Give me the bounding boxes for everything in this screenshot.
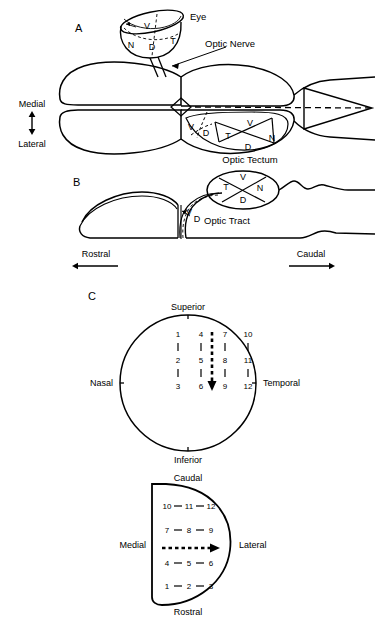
telencephalon-lateral-top-inner (80, 196, 177, 226)
retina-column-3: 7 8 9 (223, 330, 228, 391)
tectum-label-temporal: T (225, 131, 231, 141)
tectum-arrowhead (210, 544, 220, 553)
axis-label-rostral: Rostral (82, 249, 111, 259)
retina-cell-2-3: 6 (199, 382, 204, 391)
tectum-quadrant-map-dorsal: V D T V N D (186, 112, 288, 152)
retina-cell-4-3: 12 (244, 382, 253, 391)
tectum-cell-3-1: 4 (165, 559, 170, 568)
axis-arrowhead-up (29, 111, 36, 117)
tectum-label-medial: Medial (119, 540, 146, 550)
midline-axis-dashed (195, 107, 372, 108)
tectum-edge-label-dorsal: D (203, 128, 210, 138)
tract-label-ventral: V (186, 207, 192, 217)
tectum-label-caudal: Caudal (174, 473, 203, 483)
tectum-label-ventral: V (247, 118, 253, 128)
retina-label-inferior: Inferior (174, 455, 202, 465)
axis-label-medial: Medial (19, 99, 46, 109)
rostral-arrowhead (72, 263, 78, 269)
retina-column-2: 4 5 6 (199, 330, 204, 391)
tectum-lateral-label-temporal: T (223, 182, 229, 192)
retinotectal-diagram: A V N D T Eye (0, 0, 375, 619)
tectum-cell-4-3: 3 (209, 582, 214, 591)
brainstem-lateral-top (324, 185, 375, 190)
optic-nerve-group: Optic Nerve (150, 38, 255, 77)
retina-label-temporal: Temporal (263, 378, 300, 388)
optic-nerve-leader (172, 47, 226, 66)
tectum-label-rostral: Rostral (174, 607, 203, 617)
axis-label-lateral: Lateral (18, 139, 46, 149)
optic-nerve-leader-arrowhead (172, 63, 179, 69)
retina-direction-arrow (208, 332, 217, 391)
retina-map: Superior Inferior Nasal Temporal 1 2 3 4… (90, 302, 300, 465)
retina-cell-3-1: 7 (223, 330, 228, 339)
eye-rim (119, 6, 186, 39)
tectum-lateral-label-nasal: N (257, 183, 264, 193)
retina-label-nasal: Nasal (90, 378, 113, 388)
retina-circle (120, 315, 256, 451)
brainstem-upper-edge (294, 77, 375, 95)
tectum-lateral-group: T V N D (207, 171, 279, 209)
telencephalon-lower (60, 110, 181, 154)
retina-cell-3-2: 8 (223, 356, 228, 365)
panel-c: C Superior Inferior Nasal Temporal 1 2 3 (88, 290, 300, 617)
tectum-cell-2-3: 9 (209, 526, 214, 535)
tectum-lower-dorsal (181, 110, 294, 153)
retina-cell-1-3: 3 (176, 382, 181, 391)
eye-group: V N D T Eye (119, 6, 207, 58)
tectum-cell-2-1: 7 (165, 526, 170, 535)
eye-text-label: Eye (190, 11, 206, 22)
tectum-lateral-label-dorsal: D (240, 195, 247, 205)
brainstem-lower-edge (294, 121, 375, 140)
panel-b-letter: B (73, 176, 80, 188)
cerebellum-lateral (279, 181, 324, 190)
retina-cell-2-1: 4 (199, 330, 204, 339)
optic-nerve-text-label: Optic Nerve (205, 38, 255, 49)
tectum-row-3: 4 5 6 (165, 559, 214, 568)
panel-c-letter: C (88, 290, 96, 302)
medial-lateral-axis: Medial Lateral (18, 99, 46, 149)
retina-cell-1-2: 2 (176, 356, 181, 365)
eye-arrowhead (126, 22, 130, 26)
tectum-cell-1-3: 12 (207, 502, 216, 511)
tectum-direction-arrow (162, 544, 220, 553)
tectum-edge-label-ventral: V (188, 122, 194, 132)
tectum-cell-4-1: 1 (165, 582, 170, 591)
eye-label-ventral: V (144, 21, 150, 31)
telencephalon-lateral-bottom (79, 226, 178, 238)
caudal-arrowhead (329, 263, 335, 269)
tectum-cell-2-2: 8 (187, 526, 192, 535)
brainstem-lateral-bottom (186, 231, 375, 238)
retina-cell-4-2: 11 (244, 356, 253, 365)
retina-column-4: 10 11 12 (244, 330, 253, 391)
tectum-label-lateral: Lateral (239, 540, 267, 550)
tectum-upper-dorsal (181, 64, 294, 106)
tectum-label-nasal: N (269, 133, 276, 143)
optic-tectum-text-label: Optic Tectum (222, 154, 277, 165)
brain-dorsal-outline (60, 62, 375, 154)
panel-a-letter: A (75, 22, 83, 34)
tectum-row-2: 7 8 9 (165, 526, 214, 535)
retina-label-superior: Superior (171, 302, 205, 312)
eye-label-temporal: T (170, 36, 176, 46)
rostral-caudal-axis: Rostral Caudal (72, 249, 335, 269)
axis-label-caudal: Caudal (297, 249, 326, 259)
tectum-label-dorsal: D (245, 142, 252, 152)
panel-b: B V D Optic Tract T V N D (72, 171, 375, 269)
optic-tract-text-label: Optic Tract (204, 215, 250, 226)
tectum-cell-4-2: 2 (187, 582, 192, 591)
axis-arrowhead-down (29, 129, 36, 135)
retina-arrowhead (208, 381, 217, 391)
tectum-cell-3-2: 5 (187, 559, 192, 568)
tectum-cell-1-2: 11 (185, 502, 194, 511)
tectum-cell-3-3: 6 (209, 559, 214, 568)
retina-cell-2-2: 5 (199, 356, 204, 365)
figure-container: A V N D T Eye (0, 0, 375, 619)
tectum-cell-1-1: 10 (163, 502, 172, 511)
tract-label-dorsal: D (194, 214, 201, 224)
panel-a: A V N D T Eye (18, 6, 375, 165)
cerebellum-triangle (304, 88, 372, 129)
tectum-cross-line-3 (215, 122, 219, 142)
eye-label-dorsal: D (149, 42, 156, 52)
tectum-lateral-label-ventral: V (240, 172, 246, 182)
retina-column-1: 1 2 3 (176, 330, 181, 391)
